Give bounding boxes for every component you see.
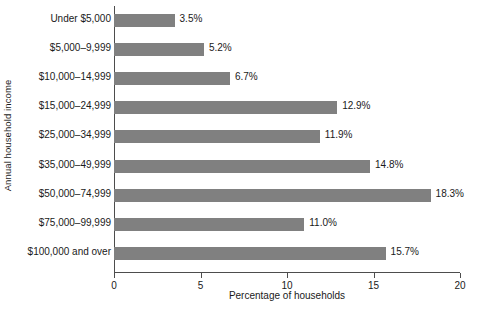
bar-value-label: 14.8%: [375, 159, 403, 170]
bar-value-label: 11.0%: [309, 217, 337, 228]
category-label: $100,000 and over: [28, 246, 111, 257]
bar-value-label: 12.9%: [342, 100, 370, 111]
bar: [114, 160, 370, 173]
y-axis-title-label: Annual household income: [3, 79, 14, 191]
bar: [114, 247, 386, 260]
bar-row: $5,000–9,9995.2%: [114, 43, 460, 56]
x-tick: [114, 273, 115, 278]
x-tick: [287, 273, 288, 278]
bar-row: $100,000 and over15.7%: [114, 247, 460, 260]
bar-row: $25,000–34,99911.9%: [114, 130, 460, 143]
plot-area: 05101520 Under $5,0003.5%$5,000–9,9995.2…: [114, 6, 460, 272]
bar: [114, 218, 304, 231]
category-label: $10,000–14,999: [39, 71, 111, 82]
bar: [114, 101, 337, 114]
bar-value-label: 6.7%: [235, 71, 258, 82]
bar-row: Under $5,0003.5%: [114, 14, 460, 27]
category-label: $25,000–34,999: [39, 129, 111, 140]
bar: [114, 130, 320, 143]
bar: [114, 72, 230, 85]
bar: [114, 189, 431, 202]
category-label: $50,000–74,999: [39, 188, 111, 199]
x-tick: [460, 273, 461, 278]
category-label: $35,000–49,999: [39, 159, 111, 170]
bar-row: $75,000–99,99911.0%: [114, 218, 460, 231]
x-axis-title: Percentage of households: [114, 290, 460, 301]
bar-row: $35,000–49,99914.8%: [114, 160, 460, 173]
category-label: $75,000–99,999: [39, 217, 111, 228]
category-label: $15,000–24,999: [39, 100, 111, 111]
bar-row: $10,000–14,9996.7%: [114, 72, 460, 85]
bar-value-label: 3.5%: [180, 13, 203, 24]
bar-value-label: 11.9%: [325, 129, 353, 140]
bar-value-label: 18.3%: [436, 188, 464, 199]
bar-row: $50,000–74,99918.3%: [114, 189, 460, 202]
category-label: Under $5,000: [50, 13, 111, 24]
x-tick: [374, 273, 375, 278]
bar-value-label: 5.2%: [209, 42, 232, 53]
bar-row: $15,000–24,99912.9%: [114, 101, 460, 114]
bar-chart: Annual household income 05101520 Under $…: [0, 0, 491, 315]
bar: [114, 43, 204, 56]
y-axis-title: Annual household income: [0, 0, 16, 270]
bar-value-label: 15.7%: [391, 246, 419, 257]
x-tick: [201, 273, 202, 278]
category-label: $5,000–9,999: [50, 42, 111, 53]
bar: [114, 14, 175, 27]
